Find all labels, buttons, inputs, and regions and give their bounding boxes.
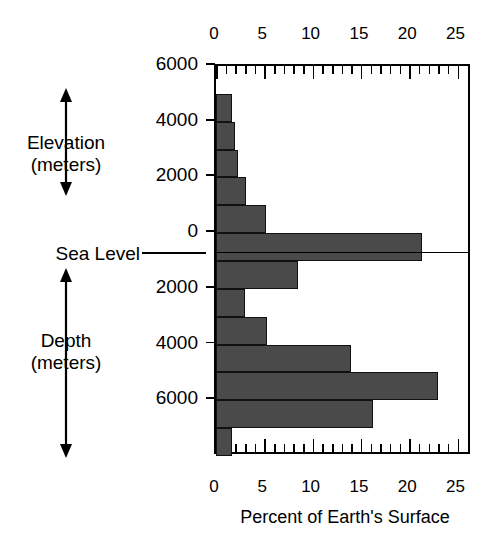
x-tick-label: 25 <box>436 477 476 497</box>
x-minor-tick <box>448 66 450 74</box>
x-major-tick <box>264 439 266 452</box>
x-minor-tick <box>351 444 353 452</box>
elevation-caption: Elevation (meters) <box>0 132 146 177</box>
x-major-tick <box>264 66 266 79</box>
bar <box>216 317 267 345</box>
x-minor-tick <box>371 66 373 74</box>
x-major-tick <box>458 439 460 452</box>
bar <box>216 400 373 428</box>
sea-level-caption: Sea Level <box>10 243 140 265</box>
x-minor-tick <box>303 66 305 74</box>
x-tick-label: 20 <box>387 24 427 44</box>
depth-caption-line1: Depth <box>0 330 146 352</box>
x-axis-title: Percent of Earth's Surface <box>190 507 498 528</box>
y-tick-label: 4000 <box>128 333 198 352</box>
x-tick-label: 20 <box>387 477 427 497</box>
x-minor-tick <box>380 66 382 74</box>
x-minor-tick <box>284 444 286 452</box>
x-minor-tick <box>293 444 295 452</box>
x-minor-tick <box>448 444 450 452</box>
x-minor-tick <box>390 444 392 452</box>
x-minor-tick <box>332 444 334 452</box>
x-tick-label: 0 <box>194 24 234 44</box>
x-major-tick <box>313 439 315 452</box>
y-tick-label: 6000 <box>128 388 198 407</box>
x-minor-tick <box>429 66 431 74</box>
x-minor-tick <box>284 66 286 74</box>
x-tick-label: 0 <box>194 477 234 497</box>
x-major-tick <box>409 66 411 79</box>
x-tick-label: 15 <box>339 477 379 497</box>
x-minor-tick <box>245 444 247 452</box>
x-tick-label: 10 <box>291 24 331 44</box>
x-minor-tick <box>419 66 421 74</box>
bar <box>216 205 266 233</box>
x-minor-tick <box>322 444 324 452</box>
x-minor-tick <box>342 444 344 452</box>
x-minor-tick <box>429 444 431 452</box>
y-tick-label: 0 <box>128 221 198 240</box>
elevation-caption-line2: (meters) <box>0 154 146 176</box>
elevation-caption-line1: Elevation <box>0 132 146 154</box>
bar <box>216 150 238 178</box>
y-tick-label: 2000 <box>128 277 198 296</box>
x-minor-tick <box>274 444 276 452</box>
sea-level-baseline <box>214 252 470 253</box>
x-minor-tick <box>255 444 257 452</box>
bar <box>216 233 422 261</box>
x-minor-tick <box>303 444 305 452</box>
x-minor-tick <box>322 66 324 74</box>
x-tick-label: 5 <box>242 24 282 44</box>
x-minor-tick <box>400 66 402 74</box>
bar <box>216 289 245 317</box>
bar <box>216 261 298 289</box>
x-tick-label: 25 <box>436 24 476 44</box>
x-major-tick <box>409 439 411 452</box>
bar <box>216 177 246 205</box>
y-tick-label: 6000 <box>128 54 198 73</box>
x-major-tick <box>313 66 315 79</box>
x-major-tick <box>361 66 363 79</box>
plot-area <box>214 64 470 454</box>
x-minor-tick <box>380 444 382 452</box>
x-tick-label: 5 <box>242 477 282 497</box>
bar <box>216 428 232 456</box>
x-minor-tick <box>400 444 402 452</box>
depth-caption-line2: (meters) <box>0 352 146 374</box>
x-minor-tick <box>293 66 295 74</box>
x-tick-label: 10 <box>291 477 331 497</box>
bar <box>216 122 235 150</box>
x-minor-tick <box>438 66 440 74</box>
x-tick-label: 15 <box>339 24 379 44</box>
x-major-tick <box>458 66 460 79</box>
sea-level-leader-line <box>142 252 206 254</box>
x-minor-tick <box>274 66 276 74</box>
x-minor-tick <box>342 66 344 74</box>
bar <box>216 345 351 373</box>
bar <box>216 372 438 400</box>
x-minor-tick <box>255 66 257 74</box>
x-major-tick <box>361 439 363 452</box>
x-minor-tick <box>419 444 421 452</box>
x-minor-tick <box>390 66 392 74</box>
x-minor-tick <box>235 444 237 452</box>
hypsometric-curve-chart: Elevation (meters) Sea Level Depth (mete… <box>0 0 498 549</box>
x-minor-tick <box>438 444 440 452</box>
depth-caption: Depth (meters) <box>0 330 146 375</box>
x-minor-tick <box>351 66 353 74</box>
x-major-tick <box>216 66 218 79</box>
x-minor-tick <box>245 66 247 74</box>
x-minor-tick <box>371 444 373 452</box>
x-minor-tick <box>332 66 334 74</box>
bar <box>216 94 232 122</box>
y-tick-label: 4000 <box>128 110 198 129</box>
x-minor-tick <box>226 66 228 74</box>
y-tick-label: 2000 <box>128 165 198 184</box>
x-minor-tick <box>235 66 237 74</box>
